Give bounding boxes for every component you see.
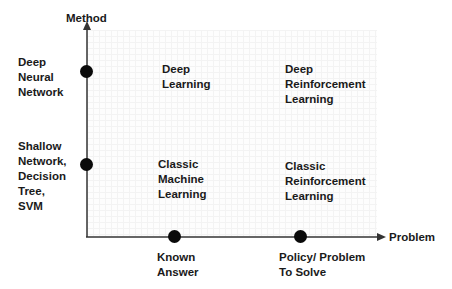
- y-axis-label-shallow-network: Shallow Network, Decision Tree, SVM: [18, 139, 67, 214]
- x-axis-label-known-answer: Known Answer: [157, 250, 199, 280]
- quadrant-deep-learning: Deep Learning: [162, 62, 211, 92]
- y-axis-label-deep-neural-network: Deep Neural Network: [18, 55, 63, 100]
- y-axis-point-shallow-network: [80, 158, 93, 171]
- y-axis-point-deep-neural-network: [80, 65, 93, 78]
- axes: [0, 0, 452, 289]
- x-axis-label-policy-problem: Policy/ Problem To Solve: [279, 250, 365, 280]
- x-axis-arrow-icon: [377, 233, 386, 241]
- y-axis-title: Method: [66, 11, 107, 26]
- x-axis-title: Problem: [389, 230, 435, 245]
- quadrant-classic-reinforcement-learning: Classic Reinforcement Learning: [285, 159, 366, 204]
- x-axis-point-policy-problem: [294, 230, 307, 243]
- quadrant-deep-reinforcement-learning: Deep Reinforcement Learning: [285, 62, 366, 107]
- x-axis-point-known-answer: [168, 230, 181, 243]
- quadrant-classic-machine-learning: Classic Machine Learning: [158, 157, 207, 202]
